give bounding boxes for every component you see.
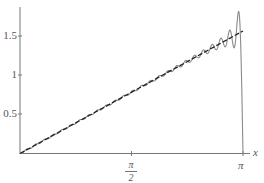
two-denominator: 2: [129, 172, 134, 183]
pi-numerator: π: [128, 159, 133, 170]
x-tick-label-pi-half: π 2: [125, 160, 137, 183]
y-tick-label-0-5: 0.5: [1, 108, 17, 119]
plot-area: [0, 0, 264, 183]
x-axis-variable-label: x: [253, 146, 258, 158]
fourier-partial-sum-curve: [20, 12, 243, 154]
y-tick-label-1: 1: [1, 69, 17, 80]
x-tick-label-pi: π: [238, 160, 244, 171]
y-tick-label-1-5: 1.5: [1, 30, 17, 41]
